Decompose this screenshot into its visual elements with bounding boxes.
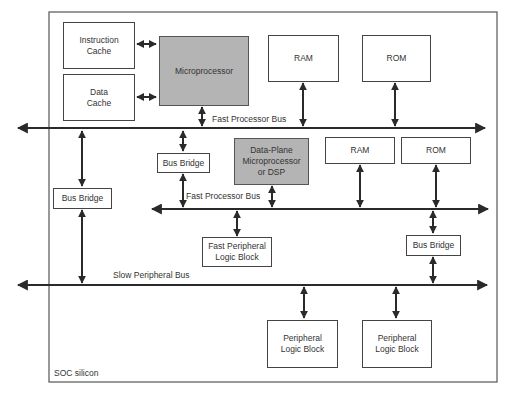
- bus-bridge-right-label: Bus Bridge: [413, 240, 455, 251]
- data-cache-block: Data Cache: [63, 74, 135, 121]
- rom-mid-label: ROM: [426, 145, 446, 156]
- bus-bridge-left: Bus Bridge: [53, 188, 112, 209]
- rom-top-block: ROM: [362, 35, 431, 82]
- bus-bridge-left-label: Bus Bridge: [62, 193, 104, 204]
- instruction-cache-block: Instruction Cache: [63, 22, 135, 69]
- soc-label: SOC silicon: [54, 368, 98, 378]
- dsp-label: Data-Plane Microprocessor or DSP: [242, 145, 300, 178]
- dsp-block: Data-Plane Microprocessor or DSP: [234, 138, 309, 185]
- microprocessor-label: Microprocessor: [175, 66, 233, 77]
- fast-bus-2-label: Fast Processor Bus: [186, 191, 260, 201]
- ram-top-block: RAM: [268, 35, 339, 82]
- slow-bus-label: Slow Peripheral Bus: [113, 270, 190, 280]
- peripheral-2-label: Peripheral Logic Block: [375, 333, 418, 355]
- rom-mid-block: ROM: [401, 137, 471, 164]
- bus-bridge-mid-label: Bus Bridge: [163, 158, 205, 169]
- ram-mid-block: RAM: [325, 137, 395, 164]
- peripheral-1-label: Peripheral Logic Block: [281, 333, 324, 355]
- fast-peripheral-block: Fast Peripheral Logic Block: [202, 237, 272, 267]
- fast-bus-1-label: Fast Processor Bus: [212, 114, 286, 124]
- peripheral-block-1: Peripheral Logic Block: [267, 320, 338, 368]
- fast-peripheral-label: Fast Peripheral Logic Block: [208, 241, 266, 263]
- ram-mid-label: RAM: [351, 145, 370, 156]
- ram-top-label: RAM: [294, 53, 313, 64]
- bus-bridge-right: Bus Bridge: [406, 235, 461, 256]
- microprocessor-block: Microprocessor: [159, 36, 249, 106]
- bus-bridge-mid: Bus Bridge: [157, 153, 210, 173]
- data-cache-label: Data Cache: [87, 87, 112, 109]
- instruction-cache-label: Instruction Cache: [79, 35, 118, 57]
- peripheral-block-2: Peripheral Logic Block: [362, 320, 432, 368]
- rom-top-label: ROM: [387, 53, 407, 64]
